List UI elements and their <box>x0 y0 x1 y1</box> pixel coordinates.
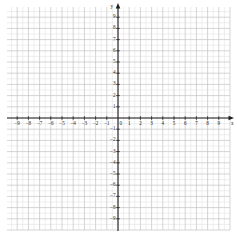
y-tick-label: −5 <box>110 171 115 176</box>
x-tick-label: −6 <box>48 121 53 126</box>
y-tick-label: −2 <box>110 138 115 143</box>
x-tick-label: 9 <box>218 121 221 126</box>
y-tick-label: 4 <box>113 71 116 76</box>
y-tick-label: 3 <box>113 82 116 87</box>
y-tick-label: 8 <box>113 26 116 31</box>
y-tick-label: 2 <box>113 93 116 98</box>
y-tick-label: 5 <box>113 59 116 64</box>
y-tick-label: −1 <box>110 127 115 132</box>
y-tick-label: −7 <box>110 194 115 199</box>
x-tick-label: −8 <box>26 121 31 126</box>
x-tick-label: 3 <box>150 121 153 126</box>
y-tick-label: 6 <box>113 48 116 53</box>
x-tick-label: 5 <box>173 121 176 126</box>
x-tick-label: 1 <box>128 121 131 126</box>
x-tick-label: −2 <box>93 121 98 126</box>
y-tick-label: 7 <box>113 37 116 42</box>
y-tick-label: 9 <box>113 15 116 20</box>
coordinate-plane: −9−8−7−6−5−4−3−2−1123456789987654321−1−2… <box>0 0 237 237</box>
y-tick-label: −4 <box>110 160 115 165</box>
x-axis-label: x <box>231 121 234 126</box>
origin-label: 0 <box>120 121 123 126</box>
x-tick-label: −4 <box>71 121 76 126</box>
y-tick-label: −8 <box>110 205 115 210</box>
x-tick-label: −5 <box>59 121 64 126</box>
x-tick-label: −3 <box>82 121 87 126</box>
x-tick-label: −1 <box>104 121 109 126</box>
axes-group <box>0 0 237 237</box>
x-tick-label: 8 <box>206 121 209 126</box>
x-tick-label: −9 <box>15 121 20 126</box>
x-tick-label: 7 <box>195 121 198 126</box>
y-axis-label: y <box>111 4 114 9</box>
x-tick-label: 4 <box>162 121 165 126</box>
x-tick-label: −7 <box>37 121 42 126</box>
y-tick-label: −3 <box>110 149 115 154</box>
y-axis-arrowhead <box>116 3 121 9</box>
x-tick-label: 6 <box>184 121 187 126</box>
y-tick-label: 1 <box>113 104 116 109</box>
y-tick-label: −6 <box>110 183 115 188</box>
x-tick-label: 2 <box>139 121 142 126</box>
y-tick-label: −9 <box>110 216 115 221</box>
